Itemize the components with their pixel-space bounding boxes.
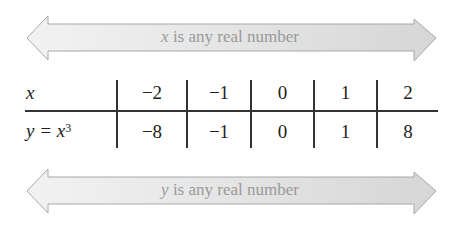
y-equation: y = x [26,120,65,141]
exponent: 3 [65,121,71,135]
x-value: −2 [118,82,186,104]
row-label-x: x [26,82,34,104]
x-value: 1 [315,82,376,104]
range-text: is any real number [169,180,299,199]
range-variable: y [161,180,169,199]
domain-arrow-label: x is any real number [0,27,460,47]
y-value: −1 [188,121,250,143]
x-value: 0 [252,82,313,104]
x-label: x [26,82,34,103]
domain-arrow: x is any real number [0,14,460,64]
domain-text: is any real number [169,27,299,46]
range-arrow: y is any real number [0,167,460,217]
x-value: 2 [378,82,438,104]
y-value: −8 [118,121,186,143]
x-value: −1 [188,82,250,104]
row-label-y: y = x3 [26,120,71,142]
range-arrow-label: y is any real number [0,180,460,200]
y-value: 1 [315,121,376,143]
y-value: 8 [378,121,438,143]
domain-variable: x [161,27,169,46]
y-value: 0 [252,121,313,143]
